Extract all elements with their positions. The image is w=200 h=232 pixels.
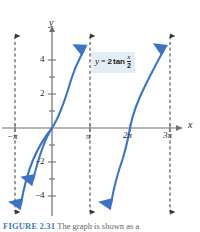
equation-fraction: x 2 bbox=[127, 54, 131, 70]
equation-numerator: x bbox=[127, 54, 130, 61]
y-tick-label-2: 2 bbox=[40, 89, 45, 98]
figure-caption-text: The graph is shown as a bbox=[57, 221, 139, 231]
curve-group bbox=[21, 50, 164, 204]
x-tick-label-two-pi: 2π bbox=[123, 131, 132, 140]
x-tick-label-three-pi: 3π bbox=[163, 131, 172, 140]
curve-branch-right bbox=[111, 50, 164, 204]
figure-caption-number: FIGURE 2.31 bbox=[3, 221, 55, 231]
figure-tangent-graph: −π π 2π 3π 4 2 −2 −4 y x y = 2 tan x 2 F… bbox=[0, 0, 200, 232]
y-tick-label-neg-2: −2 bbox=[35, 157, 45, 166]
equation-label-box: y = 2 tan x 2 bbox=[91, 52, 135, 73]
x-tick-label-neg-pi: −π bbox=[7, 132, 18, 141]
y-tick-label-neg-4: −4 bbox=[35, 191, 45, 200]
equation-equals: = bbox=[101, 58, 106, 66]
equation-function-name: tan bbox=[113, 58, 125, 66]
x-tick-label-pi: π bbox=[86, 132, 91, 141]
equation-y: y bbox=[95, 57, 99, 66]
figure-caption: FIGURE 2.31 The graph is shown as a bbox=[3, 221, 199, 232]
equation-coefficient: 2 bbox=[108, 58, 112, 66]
y-tick-label-4: 4 bbox=[40, 55, 45, 64]
graph-canvas bbox=[0, 0, 200, 232]
x-axis-label: x bbox=[188, 120, 192, 130]
y-axis-label: y bbox=[49, 18, 53, 28]
equation-denominator: 2 bbox=[127, 61, 131, 69]
